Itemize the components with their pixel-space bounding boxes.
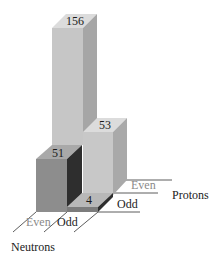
bar-value-label: 53 xyxy=(99,118,111,132)
bar-front-face xyxy=(67,207,98,212)
chart-3d-bar: 156 53 4 51 Even Odd Protons Even Odd Ne… xyxy=(0,0,223,261)
bar-odd-even: 53 xyxy=(83,118,127,195)
protons-axis-title: Protons xyxy=(172,188,209,202)
protons-tick-odd: Odd xyxy=(117,197,138,211)
bar-front-face xyxy=(52,28,83,145)
bar-value-label: 4 xyxy=(86,193,92,207)
bar-value-label: 156 xyxy=(66,14,84,28)
bar-front-face xyxy=(36,159,67,212)
protons-tick-even: Even xyxy=(131,178,156,192)
bar-value-label: 51 xyxy=(52,146,64,160)
bar-front-face xyxy=(83,132,113,195)
neutrons-axis-title: Neutrons xyxy=(11,240,55,254)
neutrons-tick-even: Even xyxy=(26,215,51,229)
neutrons-tick-odd: Odd xyxy=(57,215,78,229)
